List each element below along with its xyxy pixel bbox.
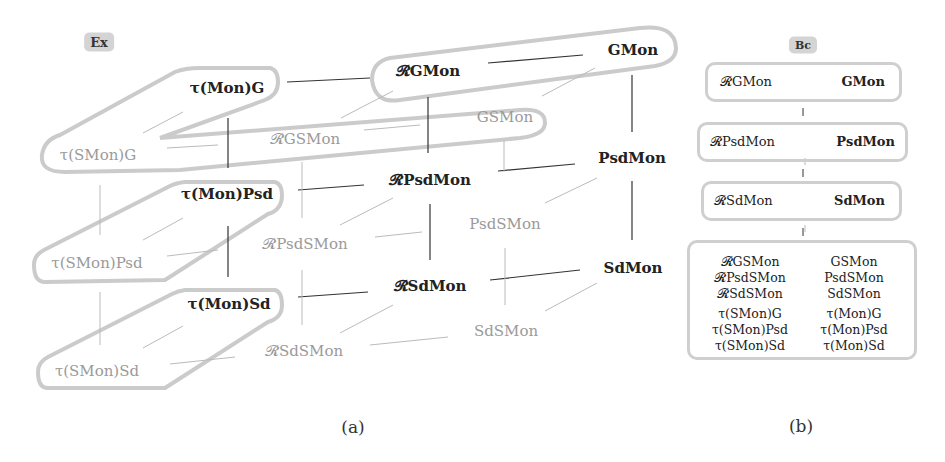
box-psd: 𝓡PsdMon PsdMon xyxy=(697,122,908,162)
panel-a-caption: (a) xyxy=(341,417,364,437)
box-sd-left: 𝓡SdMon xyxy=(714,193,773,209)
node-tau-mon-psd: τ(Mon)Psd xyxy=(181,185,273,203)
cell: 𝓡SdSMon xyxy=(698,286,802,302)
node-r-gmon: 𝓡GMon xyxy=(396,62,460,80)
node-tau-smon-sd: τ(SMon)Sd xyxy=(55,362,139,380)
cell: τ(SMon)Sd xyxy=(698,338,802,354)
node-gsmon: GSMon xyxy=(477,108,533,126)
node-tau-smon-psd: τ(SMon)Psd xyxy=(51,254,142,272)
box-sd-right: SdMon xyxy=(834,193,885,209)
node-tau-mon-g: τ(Mon)G xyxy=(190,79,265,97)
box-psd-left: 𝓡PsdMon xyxy=(710,134,775,150)
cell: GSMon xyxy=(802,254,906,270)
box-sd: 𝓡SdMon SdMon xyxy=(701,181,902,221)
cell: τ(Mon)Sd xyxy=(802,338,906,354)
panel-b-tag: Bc xyxy=(789,37,817,54)
box-psd-right: PsdMon xyxy=(836,134,895,150)
cell: 𝓡GSMon xyxy=(698,254,802,270)
node-r-sdmon: 𝓡SdMon xyxy=(394,277,467,295)
box-g-right: GMon xyxy=(841,74,885,90)
cell: PsdSMon xyxy=(802,270,906,286)
panel-a-tag: Ex xyxy=(84,33,114,52)
box-g-left: 𝓡GMon xyxy=(720,74,772,90)
grouping-outlines xyxy=(34,27,676,388)
node-psdsmon: PsdSMon xyxy=(469,215,540,233)
node-sdmon: SdMon xyxy=(604,259,663,277)
cell: 𝓡PsdSMon xyxy=(698,270,802,286)
node-tau-mon-sd: τ(Mon)Sd xyxy=(187,295,270,313)
cell: τ(SMon)Psd xyxy=(698,322,802,338)
panel-b-caption: (b) xyxy=(789,416,813,436)
node-tau-smon-g: τ(SMon)G xyxy=(60,146,136,164)
box-g: 𝓡GMon GMon xyxy=(705,62,902,102)
node-r-sdsmon: 𝓡SdSMon xyxy=(265,342,343,360)
node-r-psdsmon: 𝓡PsdSMon xyxy=(262,235,347,253)
node-sdsmon: SdSMon xyxy=(474,322,538,340)
group-smon: 𝓡GSMon GSMon 𝓡PsdSMon PsdSMon 𝓡SdSMon Sd… xyxy=(698,254,906,302)
box-remaining: 𝓡GSMon GSMon 𝓡PsdSMon PsdSMon 𝓡SdSMon Sd… xyxy=(687,240,917,360)
node-r-gsmon: 𝓡GSMon xyxy=(270,130,340,148)
cell: τ(Mon)G xyxy=(802,306,906,322)
node-r-psdmon: 𝓡PsdMon xyxy=(389,171,471,189)
cell: τ(SMon)G xyxy=(698,306,802,322)
node-gmon: GMon xyxy=(608,41,658,59)
group-tau: τ(SMon)G τ(Mon)G τ(SMon)Psd τ(Mon)Psd τ(… xyxy=(698,306,906,354)
cell: SdSMon xyxy=(802,286,906,302)
cell: τ(Mon)Psd xyxy=(802,322,906,338)
node-psdmon: PsdMon xyxy=(598,149,666,167)
